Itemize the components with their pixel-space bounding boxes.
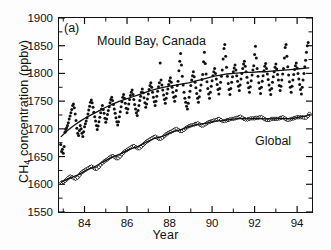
x-tick-label: 86 — [121, 217, 134, 229]
y-tick-label: 1650 — [27, 151, 53, 163]
x-tick-label: 88 — [163, 217, 176, 229]
x-tick-label: 84 — [78, 217, 91, 229]
x-axis-title: Year — [0, 228, 331, 242]
y-tick-label: 1900 — [27, 12, 53, 24]
y-tick-label: 1850 — [27, 40, 53, 52]
y-tick-label: 1750 — [27, 95, 53, 107]
y-tick-label: 1800 — [27, 67, 53, 79]
series-global — [60, 112, 312, 185]
figure-panel-a: CH4 concentration (ppbv) Year 1550160016… — [0, 0, 331, 250]
y-tick-label: 1700 — [27, 123, 53, 135]
plot-area: (a) Mould Bay, Canada Global — [58, 17, 313, 213]
series-label-global: Global — [255, 134, 291, 148]
x-tick-label: 90 — [206, 217, 219, 229]
x-tick-label: 94 — [291, 217, 304, 229]
y-tick-label: 1550 — [27, 206, 53, 218]
series-label-mould-bay: Mould Bay, Canada — [97, 34, 206, 48]
x-tick-label: 92 — [248, 217, 261, 229]
y-tick-label: 1600 — [27, 178, 53, 190]
panel-label: (a) — [64, 21, 79, 35]
